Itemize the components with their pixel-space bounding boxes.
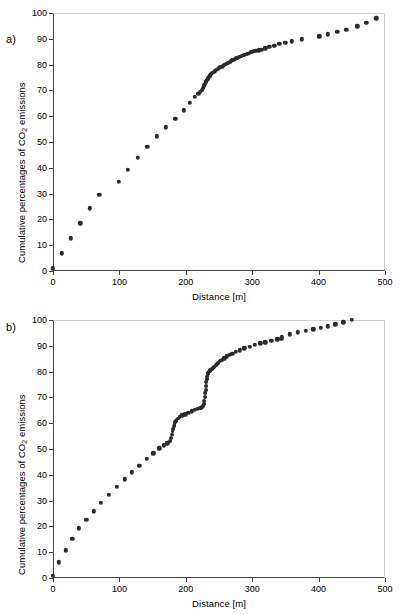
data-point bbox=[203, 391, 207, 395]
y-axis-label-a-tail: emissions bbox=[16, 82, 27, 127]
y-tick-label: 30 bbox=[37, 189, 47, 198]
y-tick-mark bbox=[49, 423, 53, 424]
chart-panel-a: a) Cumulative percentages of CO2 emissio… bbox=[0, 0, 403, 307]
x-tick-mark bbox=[119, 271, 120, 275]
x-tick-mark bbox=[186, 578, 187, 582]
y-tick-label: 10 bbox=[37, 241, 47, 250]
y-tick-mark bbox=[49, 526, 53, 527]
x-tick-mark bbox=[252, 271, 253, 275]
data-point bbox=[204, 388, 208, 392]
panel-label-a: a) bbox=[6, 33, 16, 45]
y-tick-mark bbox=[49, 194, 53, 195]
y-tick-mark bbox=[49, 245, 53, 246]
y-tick-label: 90 bbox=[37, 34, 47, 43]
y-tick-label: 80 bbox=[37, 60, 47, 69]
x-tick-mark bbox=[319, 271, 320, 275]
x-tick-mark bbox=[53, 271, 54, 275]
x-tick-label: 100 bbox=[112, 585, 127, 594]
y-tick-label: 40 bbox=[37, 470, 47, 479]
data-point bbox=[204, 384, 208, 388]
x-tick-mark bbox=[385, 271, 386, 275]
y-tick-mark bbox=[49, 219, 53, 220]
plot-frame-a bbox=[53, 13, 385, 271]
y-tick-mark bbox=[49, 116, 53, 117]
y-tick-mark bbox=[49, 320, 53, 321]
x-tick-label: 200 bbox=[178, 585, 193, 594]
y-tick-mark bbox=[49, 475, 53, 476]
x-tick-label: 0 bbox=[50, 585, 55, 594]
x-tick-mark bbox=[186, 271, 187, 275]
y-tick-label: 50 bbox=[37, 445, 47, 454]
y-tick-mark bbox=[49, 449, 53, 450]
y-axis-label-b-subscript: 2 bbox=[21, 440, 28, 444]
y-tick-mark bbox=[49, 90, 53, 91]
y-tick-label: 40 bbox=[37, 163, 47, 172]
plot-area-b: 01020304050607080901000100200300400500 bbox=[53, 320, 385, 578]
y-tick-label: 20 bbox=[37, 522, 47, 531]
y-axis-label-a: Cumulative percentages of CO2 emissions bbox=[16, 82, 27, 263]
y-tick-label: 70 bbox=[37, 86, 47, 95]
y-tick-label: 0 bbox=[42, 267, 47, 276]
y-tick-label: 80 bbox=[37, 367, 47, 376]
y-tick-label: 10 bbox=[37, 548, 47, 557]
x-tick-label: 100 bbox=[112, 278, 127, 287]
chart-panel-b: b) Cumulative percentages of CO2 emissio… bbox=[0, 307, 403, 614]
y-tick-mark bbox=[49, 13, 53, 14]
x-tick-mark bbox=[252, 578, 253, 582]
plot-area-a: 01020304050607080901000100200300400500 bbox=[53, 13, 385, 271]
x-tick-label: 500 bbox=[377, 585, 392, 594]
y-tick-label: 0 bbox=[42, 574, 47, 583]
x-tick-mark bbox=[385, 578, 386, 582]
y-tick-label: 60 bbox=[37, 112, 47, 121]
y-tick-mark bbox=[49, 346, 53, 347]
y-tick-mark bbox=[49, 142, 53, 143]
y-axis-label-b-tail: emissions bbox=[16, 394, 27, 439]
y-tick-mark bbox=[49, 397, 53, 398]
y-tick-label: 30 bbox=[37, 496, 47, 505]
x-tick-mark bbox=[53, 578, 54, 582]
y-tick-label: 50 bbox=[37, 138, 47, 147]
data-point bbox=[202, 399, 206, 403]
y-tick-label: 100 bbox=[32, 316, 47, 325]
x-tick-label: 300 bbox=[245, 278, 260, 287]
x-tick-label: 300 bbox=[245, 585, 260, 594]
y-tick-mark bbox=[49, 39, 53, 40]
panel-label-b: b) bbox=[6, 321, 16, 333]
data-point bbox=[203, 395, 207, 399]
y-tick-label: 60 bbox=[37, 419, 47, 428]
x-axis-label-b: Distance [m] bbox=[53, 598, 385, 609]
y-tick-mark bbox=[49, 501, 53, 502]
y-axis-label-b-text: Cumulative percentages of CO bbox=[16, 444, 27, 575]
x-tick-label: 500 bbox=[377, 278, 392, 287]
x-tick-label: 200 bbox=[178, 278, 193, 287]
y-tick-mark bbox=[49, 552, 53, 553]
y-axis-label-a-subscript: 2 bbox=[21, 128, 28, 132]
x-tick-label: 400 bbox=[311, 278, 326, 287]
y-axis-label-b: Cumulative percentages of CO2 emissions bbox=[16, 394, 27, 575]
y-tick-mark bbox=[49, 65, 53, 66]
x-axis-label-a: Distance [m] bbox=[53, 291, 385, 302]
x-tick-mark bbox=[319, 578, 320, 582]
y-tick-mark bbox=[49, 372, 53, 373]
x-tick-mark bbox=[119, 578, 120, 582]
y-tick-mark bbox=[49, 168, 53, 169]
y-axis-label-a-text: Cumulative percentages of CO bbox=[16, 132, 27, 263]
y-tick-label: 100 bbox=[32, 9, 47, 18]
y-tick-label: 70 bbox=[37, 393, 47, 402]
y-tick-label: 20 bbox=[37, 215, 47, 224]
x-tick-label: 400 bbox=[311, 585, 326, 594]
y-tick-label: 90 bbox=[37, 341, 47, 350]
x-tick-label: 0 bbox=[50, 278, 55, 287]
